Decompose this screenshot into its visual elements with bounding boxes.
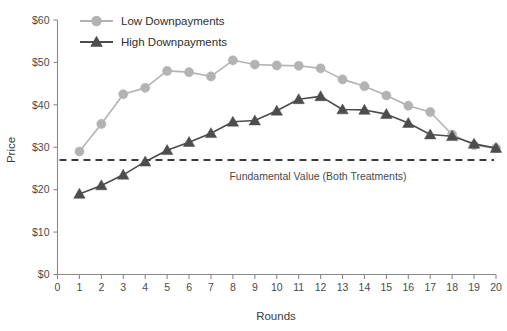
x-axis-title: Rounds xyxy=(256,310,296,322)
y-tick-label: $40 xyxy=(32,99,50,111)
x-tick-label: 17 xyxy=(424,281,436,293)
data-point xyxy=(425,129,436,139)
x-tick-label: 20 xyxy=(490,281,502,293)
x-tick-label: 7 xyxy=(208,281,214,293)
data-point xyxy=(163,66,172,75)
data-point xyxy=(96,180,107,190)
legend-item-high-downpayments: High Downpayments xyxy=(80,36,227,48)
legend-label: High Downpayments xyxy=(121,36,227,48)
data-point xyxy=(228,56,237,65)
data-point xyxy=(315,91,326,101)
x-tick-label: 6 xyxy=(186,281,192,293)
data-point xyxy=(97,119,106,128)
data-point xyxy=(249,115,260,125)
data-point xyxy=(206,72,215,81)
x-tick-label: 11 xyxy=(293,281,304,293)
y-tick-label: $0 xyxy=(38,268,50,280)
x-tick-label: 9 xyxy=(252,281,258,293)
data-point xyxy=(272,61,281,70)
data-point xyxy=(183,137,194,147)
x-axis-ticks: 01234567891011121314151617181920 xyxy=(55,275,502,293)
x-tick-label: 13 xyxy=(337,281,349,293)
series-high-downpayments xyxy=(74,91,502,199)
x-tick-label: 1 xyxy=(77,281,83,293)
fundamental-value-label: Fundamental Value (Both Treatments) xyxy=(229,170,406,182)
price-rounds-chart: $0$10$20$30$40$50$60 0123456789101112131… xyxy=(0,0,507,331)
data-point xyxy=(141,83,150,92)
x-tick-label: 14 xyxy=(359,281,371,293)
data-point xyxy=(382,91,391,100)
chart-legend: Low DownpaymentsHigh Downpayments xyxy=(80,15,227,48)
x-tick-label: 19 xyxy=(468,281,480,293)
y-tick-label: $50 xyxy=(32,56,50,68)
chart-canvas: $0$10$20$30$40$50$60 0123456789101112131… xyxy=(0,0,507,331)
data-point xyxy=(403,117,414,127)
legend-circle-marker-icon xyxy=(91,16,101,26)
x-tick-label: 10 xyxy=(271,281,283,293)
x-tick-label: 8 xyxy=(230,281,236,293)
legend-item-low-downpayments: Low Downpayments xyxy=(80,15,225,27)
y-tick-label: $20 xyxy=(32,183,50,195)
x-tick-label: 2 xyxy=(98,281,104,293)
x-tick-label: 16 xyxy=(402,281,414,293)
data-point xyxy=(74,188,85,198)
data-point xyxy=(205,128,216,138)
data-point xyxy=(426,107,435,116)
x-tick-label: 15 xyxy=(381,281,393,293)
data-point xyxy=(338,75,347,84)
data-point xyxy=(119,90,128,99)
data-point xyxy=(316,64,325,73)
data-point xyxy=(404,101,413,110)
y-tick-label: $10 xyxy=(32,226,50,238)
data-point xyxy=(271,105,282,115)
x-tick-label: 3 xyxy=(120,281,126,293)
data-point xyxy=(118,169,129,179)
legend-label: Low Downpayments xyxy=(121,15,225,27)
axes-group xyxy=(58,20,497,275)
x-tick-label: 4 xyxy=(142,281,148,293)
y-axis-ticks: $0$10$20$30$40$50$60 xyxy=(32,14,58,281)
data-point xyxy=(250,60,259,69)
y-axis-title: Price xyxy=(5,137,17,163)
x-tick-label: 18 xyxy=(446,281,458,293)
data-point xyxy=(139,156,150,166)
x-tick-label: 5 xyxy=(164,281,170,293)
data-point xyxy=(294,61,303,70)
y-tick-label: $60 xyxy=(32,14,50,26)
data-point xyxy=(360,82,369,91)
data-point xyxy=(75,147,84,156)
data-point xyxy=(184,68,193,77)
x-tick-label: 12 xyxy=(315,281,327,293)
x-tick-label: 0 xyxy=(55,281,61,293)
y-tick-label: $30 xyxy=(32,141,50,153)
